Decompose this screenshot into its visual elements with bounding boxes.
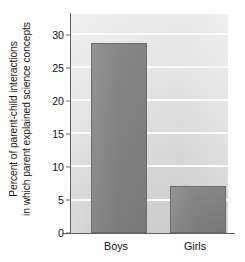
bar-boys <box>91 43 147 233</box>
gridline-30 <box>71 33 228 35</box>
y-tick-label-15: 15 <box>40 128 64 140</box>
x-tick-label-girls: Girls <box>156 240 234 252</box>
bar-girls <box>170 186 226 233</box>
y-axis-tick-labels: 30 25 20 15 10 5 0 <box>40 0 64 262</box>
y-axis-title-line-2: in which parent explained science concep… <box>21 22 34 216</box>
x-tick-label-boys: Boys <box>77 240 155 252</box>
y-axis-title-text: Percent of parent-child interactions in … <box>8 22 33 216</box>
y-axis-title: Percent of parent-child interactions in … <box>0 0 42 238</box>
bar-girls-surface <box>171 187 225 232</box>
y-tick-label-25: 25 <box>40 62 64 74</box>
x-axis-line <box>62 233 235 234</box>
y-tick-label-0: 0 <box>40 227 64 239</box>
y-axis-line <box>70 13 71 234</box>
y-tick-label-20: 20 <box>40 95 64 107</box>
bar-boys-surface <box>92 44 146 232</box>
y-tick-label-5: 5 <box>40 194 64 206</box>
y-axis-title-line-1: Percent of parent-child interactions <box>8 22 21 216</box>
y-tick-label-10: 10 <box>40 161 64 173</box>
plot-area <box>71 14 228 233</box>
bar-chart-figure: Percent of parent-child interactions in … <box>0 0 245 262</box>
y-tick-label-30: 30 <box>40 29 64 41</box>
